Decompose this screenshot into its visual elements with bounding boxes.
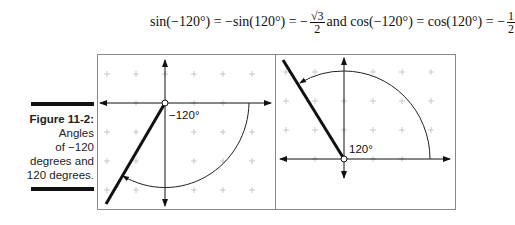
right-axes [280, 58, 450, 178]
terminal-side-120 [283, 60, 344, 159]
left-axes [100, 60, 271, 206]
fraction-1-over-2: 1 2 [507, 10, 515, 35]
terminal-side-neg120 [106, 103, 165, 204]
angle-label-120: 120° [349, 143, 373, 155]
origin-point-right [341, 156, 347, 162]
origin-point-left [162, 100, 168, 106]
angle-label-neg120: −120° [169, 109, 200, 121]
